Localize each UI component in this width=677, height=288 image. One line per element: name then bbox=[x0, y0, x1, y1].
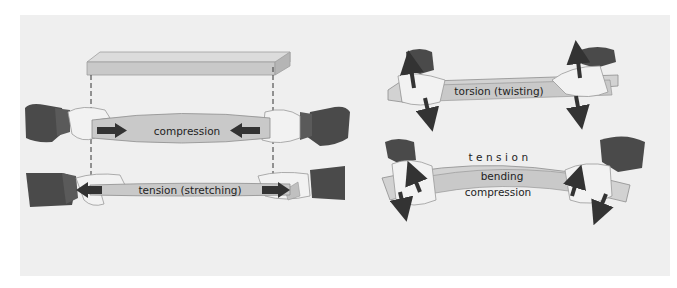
torsion-label: torsion (twisting) bbox=[454, 85, 543, 97]
bending-illustration: tension bending compression bbox=[382, 136, 645, 214]
reference-plank bbox=[87, 52, 290, 75]
compression-illustration: compression bbox=[25, 104, 350, 146]
compression-label: compression bbox=[154, 125, 221, 137]
tension-illustration: tension (stretching) bbox=[26, 166, 345, 207]
bending-tension-label: tension bbox=[468, 151, 531, 163]
bending-compression-label: compression bbox=[465, 186, 532, 198]
tension-label: tension (stretching) bbox=[138, 184, 241, 196]
stress-types-illustration: compression tension (stretching) tors bbox=[0, 0, 677, 288]
bending-label: bending bbox=[481, 170, 524, 182]
torsion-illustration: torsion (twisting) bbox=[388, 47, 618, 120]
